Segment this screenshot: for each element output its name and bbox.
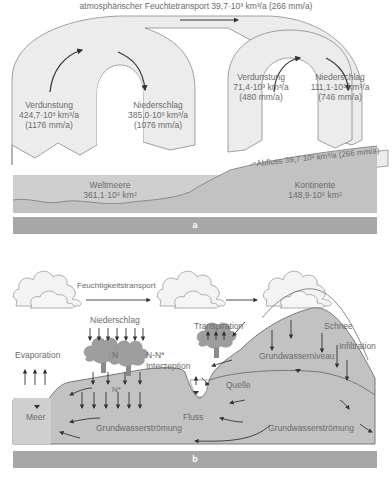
ocean-precipitation-depth: (1076 mm/a) (118, 120, 198, 130)
land-precipitation-volume: 111,1·10³ km³/a (300, 82, 380, 92)
cloud-icon (13, 271, 81, 308)
river-label: Fluss (183, 412, 203, 422)
groundwater-flow-label-2: Grundwasserströmung (268, 423, 354, 433)
cloud-icon (263, 271, 331, 308)
groundwater-flow-label-1: Grundwasserströmung (96, 423, 182, 433)
ocean-precipitation-volume: 385,0·10³ km³/a (118, 110, 198, 120)
nstar-label: N* (112, 385, 121, 395)
land-precipitation-label: Niederschlag 111,1·10³ km³/a (746 mm/a) (300, 72, 380, 102)
ocean-area-label: Weltmeere 361,1·10⁶ km² (65, 180, 155, 200)
continent-area: 148,9·10⁶ km² (270, 190, 360, 200)
continent-name: Kontinente (270, 180, 360, 190)
precipitation-label: Niederschlag (90, 315, 140, 325)
moisture-transport-label: Feuchtigkeitstransport (77, 281, 156, 291)
ocean-name: Weltmeere (65, 180, 155, 190)
snow-label: Schnee (324, 321, 353, 331)
land-evaporation-depth: (480 mm/a) (226, 92, 296, 102)
ocean-area: 361,1·10⁶ km² (65, 190, 155, 200)
panel-a-label: a (13, 217, 377, 234)
spring-label: Quelle (226, 380, 251, 390)
ocean-precipitation-title: Niederschlag (118, 100, 198, 110)
land-evaporation-label: Verdunstung 71,4·10³ km³/a (480 mm/a) (226, 72, 296, 102)
land-precipitation-depth: (746 mm/a) (300, 92, 380, 102)
infiltration-label: Infiltration (339, 341, 376, 351)
ocean-evaporation-title: Verdunstung (14, 100, 84, 110)
land-evaporation-volume: 71,4·10³ km³/a (226, 82, 296, 92)
transpiration-label: Transpiration (194, 321, 243, 331)
interception-label: Interzeption (146, 361, 190, 371)
n-minus-nstar-label: N-N* (146, 350, 164, 360)
n-label: N (112, 350, 118, 360)
water-table-label: Grundwasserniveau (259, 351, 335, 361)
evaporation-label: Evaporation (15, 350, 60, 360)
land-precipitation-title: Niederschlag (300, 72, 380, 82)
panel-b-label: b (13, 451, 377, 468)
continent-area-label: Kontinente 148,9·10⁶ km² (270, 180, 360, 200)
ocean-evaporation-volume: 424,7·10³ km³/a (14, 110, 84, 120)
atmospheric-transport-label: atmosphärischer Feuchtetransport 39,7·10… (0, 1, 392, 11)
cloud-icon (157, 271, 225, 308)
land-evaporation-title: Verdunstung (226, 72, 296, 82)
ocean-precipitation-label: Niederschlag 385,0·10³ km³/a (1076 mm/a) (118, 100, 198, 130)
ocean-evaporation-depth: (1176 mm/a) (14, 120, 84, 130)
sea-label: Meer (26, 412, 45, 422)
ocean-evaporation-label: Verdunstung 424,7·10³ km³/a (1176 mm/a) (14, 100, 84, 130)
